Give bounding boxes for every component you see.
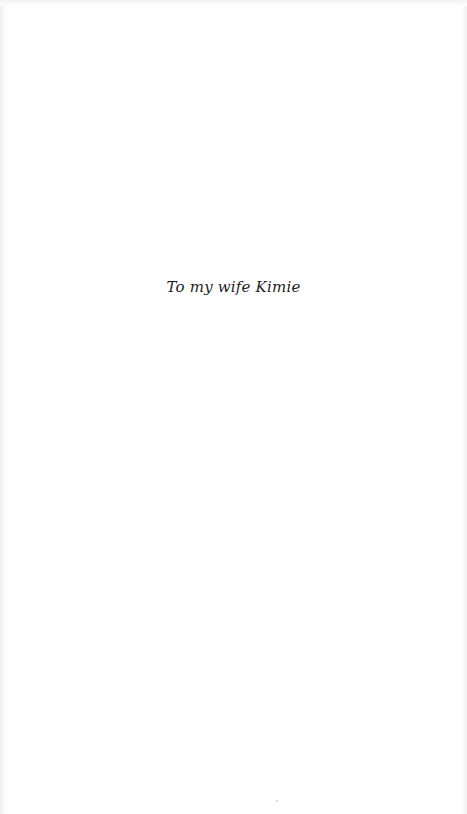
scan-speck	[276, 800, 278, 802]
book-page: To my wife Kimie	[0, 0, 467, 814]
page-left-edge-shadow	[0, 0, 8, 814]
dedication-text: To my wife Kimie	[0, 278, 467, 296]
page-top-edge-shadow	[0, 0, 467, 6]
page-right-edge-shadow	[462, 0, 467, 814]
